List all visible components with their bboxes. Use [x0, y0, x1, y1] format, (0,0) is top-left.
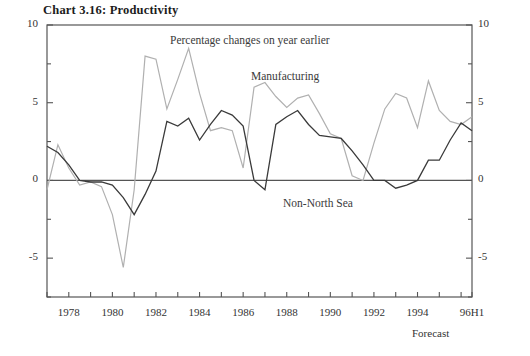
x-tick-label: 1994 — [407, 306, 429, 318]
x-tick-label: 1980 — [101, 306, 123, 318]
non-north-sea-label: Non-North Sea — [283, 197, 353, 209]
x-tick-label: 1978 — [58, 306, 80, 318]
plot-area — [0, 0, 530, 356]
plot-frame — [47, 25, 472, 297]
x-axis-ticks — [47, 292, 472, 297]
x-tick-label: 1984 — [189, 306, 211, 318]
y-tick-label-left: -5 — [18, 250, 38, 262]
forecast-label: Forecast — [412, 327, 449, 339]
subtitle-annotation: Percentage changes on year earlier — [170, 34, 330, 46]
x-tick-label: 1988 — [276, 306, 298, 318]
x-tick-label: 1990 — [319, 306, 341, 318]
x-tick-label: 1986 — [232, 306, 254, 318]
y-axis-ticks-right — [466, 25, 472, 297]
x-tick-label: 1992 — [363, 306, 385, 318]
y-tick-label-right: 10 — [478, 17, 498, 29]
x-tick-label: 96H1 — [460, 306, 484, 318]
y-tick-label-right: -5 — [478, 250, 498, 262]
y-tick-label-right: 0 — [478, 172, 498, 184]
manufacturing-label: Manufacturing — [251, 70, 319, 82]
x-tick-label: 1982 — [145, 306, 167, 318]
series-line-non-north-sea — [47, 110, 472, 214]
chart-container: Chart 3.16: Productivity Percentage chan… — [0, 0, 530, 356]
y-tick-label-right: 5 — [478, 95, 498, 107]
y-tick-label-left: 5 — [18, 95, 38, 107]
y-tick-label-left: 10 — [18, 17, 38, 29]
y-tick-label-left: 0 — [18, 172, 38, 184]
y-axis-ticks-left — [47, 25, 53, 297]
